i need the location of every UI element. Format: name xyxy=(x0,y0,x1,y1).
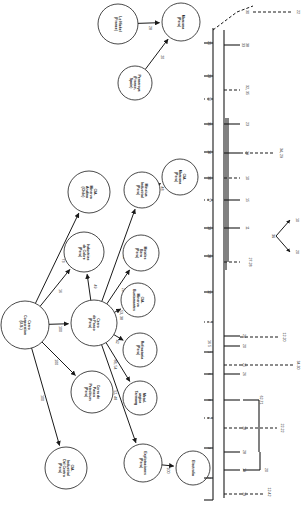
dendro-leaf-label: 7 xyxy=(207,321,211,323)
network-edge: 20 xyxy=(145,39,168,69)
edge-line xyxy=(145,39,168,69)
dendro-leaf-label: 34, 29 xyxy=(279,148,283,158)
dendro-leaf-label: 21 xyxy=(207,41,211,45)
dendro-leaf-label: 5 xyxy=(207,345,211,347)
edge-line xyxy=(87,274,91,300)
dendro-leaf-label: 10 xyxy=(245,176,249,180)
network-edge: 16 xyxy=(40,269,70,306)
edge-label: 42 xyxy=(115,340,119,344)
edge-label: 16 xyxy=(58,289,62,293)
network-node[interactable]: CIA.IndustrialDel Centro(Peru) xyxy=(45,447,87,489)
dendro-leaf-label: 22-22 xyxy=(280,423,284,432)
network-node[interactable]: Penarroya(France,Spain) xyxy=(118,66,152,100)
edge-label: 49 xyxy=(93,285,97,289)
edge-label: 73 xyxy=(61,258,65,262)
dendrogram: 22302138332332, 353635231434, 2929301017… xyxy=(204,6,300,500)
dendro-leaf-label: 18 xyxy=(242,426,246,430)
dendro-leaf-label: 28 xyxy=(242,450,246,454)
dendro-leaf-label: 27-28 xyxy=(248,257,252,266)
dendro-leaf-label: 12-42 xyxy=(267,487,271,496)
network-edge: 49 xyxy=(87,274,97,300)
network-node[interactable]: CIA.MinervaAndina(Chile) xyxy=(68,171,110,213)
network-edge: 100 xyxy=(42,342,75,375)
network-edge: 28 xyxy=(138,23,160,30)
dendro-leaf-label: 13 xyxy=(207,226,211,230)
edge-line xyxy=(138,23,160,24)
edge-label: 48 xyxy=(160,187,164,191)
dendro-leaf-label: 30 xyxy=(245,10,249,14)
dendro-leaf-label: 16 xyxy=(207,340,211,344)
dendro-leaf-label: 2 xyxy=(207,477,211,479)
network-node[interactable]: CIA.MinervaBustamantes xyxy=(121,283,155,317)
ownership-network-figure: 2820731610010010049482853, 384288, 5452,… xyxy=(0,0,308,512)
network-node[interactable]: CerroCorporation(U.S.) xyxy=(1,301,49,349)
dendro-leaf-label: 19 xyxy=(242,492,246,496)
dendro-leaf-label: 15 xyxy=(245,198,249,202)
network-node[interactable]: Refractaria(Peru) xyxy=(123,333,157,367)
network-node[interactable]: Industriasde Cobre(Peru) xyxy=(64,232,104,272)
dendro-leaf-label: 8 xyxy=(207,399,211,401)
dendro-leaf-label: 4 xyxy=(207,417,211,419)
edge-label: 100 xyxy=(58,326,62,332)
dendro-leaf-label: 11 xyxy=(245,226,249,230)
network-node[interactable]: Cerrode Pasco(Peru) xyxy=(71,300,117,346)
network-nodes: Le Nickel(France)Penarroya(France,Spain)… xyxy=(1,3,210,489)
dendro-leaf-label: 3 xyxy=(207,447,211,449)
network-node[interactable]: Metal-urgicaTarmang xyxy=(123,381,157,415)
node-label: Electrolia xyxy=(191,460,195,476)
network-node[interactable]: Explotaciones(Peru) xyxy=(124,444,162,482)
dendro-leaf-label: 19 xyxy=(242,468,246,472)
dendro-leaf-label: 12-20 xyxy=(282,332,286,341)
edge-line xyxy=(40,269,70,306)
dendro-leaf-label: 30 xyxy=(207,176,211,180)
network-node[interactable]: Marcona(Peru) xyxy=(162,3,200,41)
dendro-leaf-label: 23 xyxy=(245,122,249,126)
network-node[interactable]: MinsiuaIndustrial(Peru) xyxy=(124,172,160,208)
cluster-edge xyxy=(276,220,290,236)
cluster-edge xyxy=(276,236,290,252)
node-label: Le Nickel(France) xyxy=(114,16,122,31)
dendro-leaf-label: 1 xyxy=(207,351,211,353)
dendro-leaf-label: 17 xyxy=(207,198,211,202)
dendro-leaf-label: 36 xyxy=(207,97,211,101)
network-edge: 100 xyxy=(49,324,69,332)
dendro-leaf-label: 25 xyxy=(242,363,246,367)
network-node[interactable]: Le Nickel(France) xyxy=(98,4,138,44)
dendro-leaf-label: 22 xyxy=(296,10,300,14)
edge-label: 52, 48 xyxy=(113,390,117,400)
dendro-leaf-label: 62-71 xyxy=(259,395,263,404)
network-edge: 42 xyxy=(114,335,123,344)
network-node[interactable]: CIA.Marcona(Peru) xyxy=(162,159,198,195)
diagram-canvas: 2820731610010010049482853, 384288, 5452,… xyxy=(0,0,308,512)
dendro-leaf-label: 26 xyxy=(242,372,246,376)
network-node[interactable]: Electrolia xyxy=(176,451,210,485)
dendro-leaf-label: 6 xyxy=(207,373,211,375)
edge-label: 88, 54 xyxy=(113,360,117,370)
edge-label: 53, 38 xyxy=(119,310,123,320)
edge-label: 20 xyxy=(160,55,164,59)
edge-label: 100 xyxy=(54,359,58,365)
dendro-leaf-label: 28 xyxy=(207,254,211,258)
cluster-leaf-label: 10 xyxy=(295,218,299,222)
network-node[interactable]: MetalesBera(Peru) xyxy=(123,235,159,271)
dendro-leaf-label: 34-30 xyxy=(296,360,300,369)
edge-label: 100 xyxy=(40,395,44,401)
network-node[interactable]: Cerro dePascoPetroleum(Peru) xyxy=(71,371,113,413)
small-cluster: 102036 xyxy=(271,218,299,254)
cluster-leaf-label: 20 xyxy=(295,250,299,254)
edge-line xyxy=(162,465,174,466)
dendro-leaf-label: 14 xyxy=(207,150,211,154)
dendro-leaf-label: 3833 xyxy=(241,43,249,47)
dendro-leaf-label: 35 xyxy=(207,122,211,126)
dendro-leaf-label: 32, 35 xyxy=(245,85,249,95)
dendro-leaf-label: 29 xyxy=(245,151,249,155)
dendro-leaf-label: 20 xyxy=(242,344,246,348)
dendro-leaf-label: 24 xyxy=(242,334,246,338)
cluster-center-label: 36 xyxy=(271,234,275,238)
edge-line xyxy=(49,324,69,325)
edge-label: 100 xyxy=(166,467,170,473)
network-edge: 100 xyxy=(162,465,174,474)
dendro-leaf-label: 23 xyxy=(207,74,211,78)
dendro-leaf-label: 12 xyxy=(207,290,211,294)
dendro-leaf-label: 20 xyxy=(264,468,268,472)
